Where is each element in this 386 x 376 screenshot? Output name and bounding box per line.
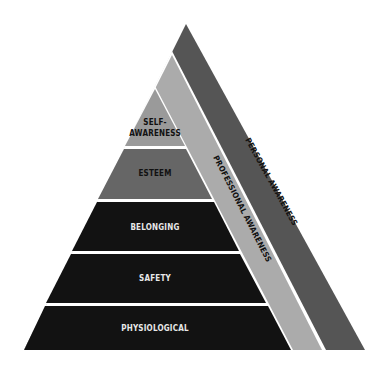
label-esteem: ESTEEM [138, 169, 171, 178]
label-self-awareness-1: SELF- [143, 118, 166, 127]
label-safety: SAFETY [139, 274, 171, 283]
pyramid-diagram: SELF- AWARENESS ESTEEM BELONGING SAFETY … [0, 0, 386, 376]
label-self-awareness-2: AWARENESS [129, 129, 181, 138]
label-physiological: PHYSIOLOGICAL [121, 324, 189, 333]
label-belonging: BELONGING [130, 223, 179, 232]
